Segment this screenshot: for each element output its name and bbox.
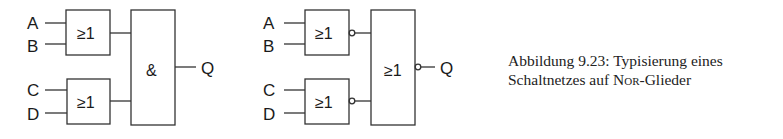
caption-line-2: Schaltnetzes auf Nor-Glieder (508, 70, 723, 89)
caption-line-1: Abbildung 9.23: Typisierung eines (508, 51, 723, 70)
caption-text: Schaltnetzes auf (508, 71, 613, 88)
gate-label: & (146, 62, 157, 79)
gate-label: ≥1 (384, 62, 402, 79)
input-b: B (27, 37, 38, 56)
input-d: D (263, 105, 275, 124)
caption-text: -Glieder (640, 71, 692, 88)
input-c: C (27, 81, 39, 100)
input-b: B (263, 37, 274, 56)
output-q: Q (440, 59, 453, 78)
left-circuit (45, 10, 196, 125)
gate-label: ≥1 (315, 94, 333, 111)
negation-bubble (349, 98, 355, 104)
figure-caption: Abbildung 9.23: Typisierung eines Schalt… (508, 51, 723, 89)
right-circuit (284, 10, 435, 125)
gate-label: ≥1 (315, 25, 333, 42)
gate-label: ≥1 (77, 94, 95, 111)
negation-bubble (349, 30, 355, 36)
output-q: Q (201, 59, 214, 78)
negation-bubble (415, 64, 421, 70)
caption-nor: Nor (613, 71, 639, 88)
input-d: D (27, 105, 39, 124)
input-c: C (263, 81, 275, 100)
input-a: A (27, 14, 39, 33)
input-a: A (263, 14, 275, 33)
gate-label: ≥1 (77, 25, 95, 42)
